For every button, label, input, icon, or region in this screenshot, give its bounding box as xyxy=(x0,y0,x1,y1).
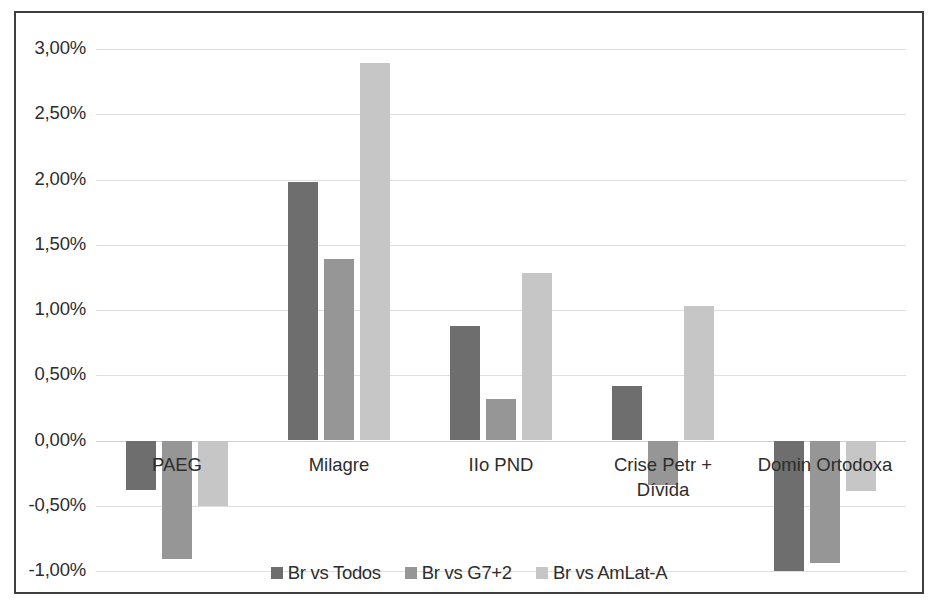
gridline xyxy=(96,49,906,50)
bar xyxy=(612,386,642,441)
gridline xyxy=(96,375,906,376)
y-axis-tick-label: 0,00% xyxy=(16,429,86,451)
gridline xyxy=(96,114,906,115)
bar xyxy=(324,259,354,440)
y-axis-tick-label: 0,50% xyxy=(16,363,86,385)
chart-legend: Br vs TodosBr vs G7+2Br vs AmLat-A xyxy=(16,562,922,584)
x-axis-category-label: PAEG xyxy=(84,452,270,477)
x-axis-category-label: IIo PND xyxy=(408,452,594,477)
x-axis-category-label-line: Milagre xyxy=(246,452,432,477)
x-axis-category-label: Domin Ortodoxa xyxy=(732,452,918,477)
y-axis-tick-label: 3,00% xyxy=(16,37,86,59)
y-axis-tick-label: -0,50% xyxy=(16,494,86,516)
x-axis-category-label-line: Dívida xyxy=(570,477,756,502)
x-axis-category-label-line: IIo PND xyxy=(408,452,594,477)
y-axis-tick-label: 1,00% xyxy=(16,298,86,320)
bar xyxy=(486,399,516,441)
bar xyxy=(522,273,552,440)
x-axis-category-label: Crise Petr +Dívida xyxy=(570,452,756,502)
legend-label: Br vs Todos xyxy=(288,562,381,584)
x-axis-category-label-line: Crise Petr + xyxy=(570,452,756,477)
x-axis-category-label-line: Domin Ortodoxa xyxy=(732,452,918,477)
gridline xyxy=(96,180,906,181)
legend-swatch-icon xyxy=(536,567,548,579)
legend-label: Br vs AmLat-A xyxy=(553,562,667,584)
x-axis-category-label-line: PAEG xyxy=(84,452,270,477)
plot-area: 3,00%2,50%2,00%1,50%1,00%0,50%0,00%-0,50… xyxy=(16,13,922,592)
gridline xyxy=(96,245,906,246)
legend-item[interactable]: Br vs G7+2 xyxy=(405,562,512,584)
legend-label: Br vs G7+2 xyxy=(422,562,512,584)
y-axis-tick-label: 2,00% xyxy=(16,168,86,190)
bar xyxy=(684,306,714,440)
bar xyxy=(288,182,318,440)
y-axis-tick-label: 1,50% xyxy=(16,233,86,255)
legend-item[interactable]: Br vs AmLat-A xyxy=(536,562,667,584)
legend-swatch-icon xyxy=(271,567,283,579)
bar xyxy=(360,63,390,440)
legend-swatch-icon xyxy=(405,567,417,579)
legend-item[interactable]: Br vs Todos xyxy=(271,562,381,584)
gridline xyxy=(96,310,906,311)
chart-frame: 3,00%2,50%2,00%1,50%1,00%0,50%0,00%-0,50… xyxy=(14,11,924,594)
bar xyxy=(450,326,480,441)
x-axis-category-label: Milagre xyxy=(246,452,432,477)
y-axis-tick-label: 2,50% xyxy=(16,102,86,124)
